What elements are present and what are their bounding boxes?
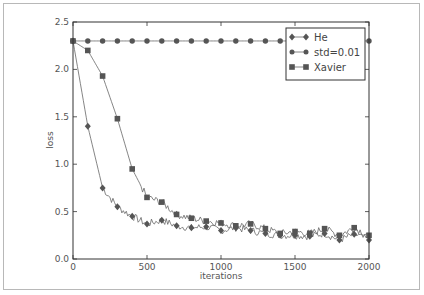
loss-chart: 05001000150020000.00.51.01.52.02.5 itera… (0, 0, 424, 295)
circle-marker-icon (304, 50, 309, 55)
data-point (218, 38, 223, 43)
data-point (85, 48, 91, 54)
data-point (263, 38, 268, 43)
data-point (130, 38, 135, 43)
square-marker-icon (289, 64, 295, 70)
data-point (263, 226, 269, 232)
data-point (203, 223, 209, 230)
data-point (322, 226, 328, 232)
data-point (85, 123, 91, 130)
data-point (248, 38, 253, 43)
x-tick-label: 0 (70, 262, 76, 272)
y-tick-label: 0.5 (55, 207, 69, 217)
data-point (278, 38, 283, 43)
data-point (115, 38, 120, 43)
data-point (144, 195, 150, 201)
data-point (144, 38, 149, 43)
y-tick-label: 2.0 (55, 64, 70, 74)
circle-marker-icon (290, 50, 295, 55)
square-marker-icon (303, 64, 309, 70)
data-point (218, 220, 224, 226)
data-point (233, 223, 239, 229)
data-point (233, 38, 238, 43)
data-point (144, 220, 150, 227)
data-point (292, 229, 298, 235)
legend-label: std=0.01 (314, 47, 360, 58)
x-tick-label: 1500 (284, 262, 307, 272)
y-tick-label: 0.0 (55, 254, 70, 264)
data-point (85, 38, 90, 43)
data-point (351, 225, 357, 231)
data-point (248, 221, 254, 227)
data-point (129, 166, 135, 172)
data-point (277, 231, 283, 237)
legend-label: Xavier (314, 62, 347, 73)
data-point (115, 116, 121, 122)
data-point (174, 222, 180, 229)
data-point (174, 212, 180, 218)
legend: Hestd=0.01Xavier (286, 28, 365, 80)
data-point (159, 38, 164, 43)
data-point (189, 215, 195, 221)
data-point (188, 224, 194, 231)
data-point (174, 38, 179, 43)
data-point (100, 73, 106, 79)
legend-label: He (314, 32, 328, 43)
data-point (100, 38, 105, 43)
data-point (337, 233, 343, 239)
data-point (203, 218, 209, 224)
x-axis-label: iterations (200, 271, 243, 281)
data-point (204, 38, 209, 43)
y-axis-label: loss (45, 131, 55, 149)
data-point (307, 231, 313, 237)
y-tick-label: 1.5 (55, 112, 69, 122)
data-point (189, 38, 194, 43)
y-tick-label: 2.5 (55, 17, 69, 27)
data-point (159, 199, 165, 205)
x-tick-label: 500 (138, 262, 155, 272)
y-tick-label: 1.0 (55, 159, 70, 169)
x-tick-label: 2000 (358, 262, 381, 272)
